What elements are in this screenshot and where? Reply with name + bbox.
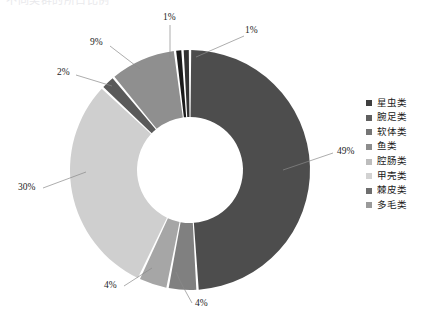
leader-line-9pct xyxy=(110,46,140,69)
legend-item-label: 鱼类 xyxy=(377,142,397,152)
donut-slice xyxy=(191,50,310,290)
donut-chart-canvas xyxy=(0,0,422,325)
legend-item-label: 甲壳类 xyxy=(377,172,407,182)
legend-swatch-icon xyxy=(366,100,372,106)
legend-item-label: 软体类 xyxy=(377,128,407,138)
legend-item[interactable]: 棘皮类 xyxy=(366,184,422,199)
callout-4pct-right: 4% xyxy=(195,299,208,309)
callout-1pct-left: 1% xyxy=(163,13,176,23)
legend-item[interactable]: 腔肠类 xyxy=(366,154,422,169)
leader-line-2pct xyxy=(76,75,112,86)
donut-slice-group xyxy=(70,50,310,290)
callout-1pct-right: 1% xyxy=(245,26,258,36)
legend-item[interactable]: 鱼类 xyxy=(366,140,422,155)
callout-2pct: 2% xyxy=(57,68,70,78)
legend-item[interactable]: 甲壳类 xyxy=(366,169,422,184)
legend-item-label: 星虫类 xyxy=(377,99,407,109)
callout-4pct-left: 4% xyxy=(104,281,117,291)
legend-swatch-icon xyxy=(366,159,372,165)
callout-9pct: 9% xyxy=(90,38,103,48)
callout-49pct: 49% xyxy=(337,147,354,157)
legend-item-label: 多毛类 xyxy=(377,201,407,211)
callout-30pct: 30% xyxy=(18,183,35,193)
legend-swatch-icon xyxy=(366,144,372,150)
legend-item[interactable]: 星虫类 xyxy=(366,96,422,111)
legend-item-label: 腔肠类 xyxy=(377,157,407,167)
legend-swatch-icon xyxy=(366,188,372,194)
legend-item-label: 棘皮类 xyxy=(377,186,407,196)
legend-item[interactable]: 腕足类 xyxy=(366,111,422,126)
legend-swatch-icon xyxy=(366,173,372,179)
legend-item-label: 腕足类 xyxy=(377,113,407,123)
legend-swatch-icon xyxy=(366,129,372,135)
legend-item[interactable]: 多毛类 xyxy=(366,198,422,213)
legend-swatch-icon xyxy=(366,115,372,121)
legend-swatch-icon xyxy=(366,202,372,208)
legend-item[interactable]: 软体类 xyxy=(366,125,422,140)
chart-legend: 星虫类腕足类软体类鱼类腔肠类甲壳类棘皮类多毛类 xyxy=(366,96,422,213)
donut-chart-figure: 不同类群的所占比例 1% 1% 9% 2% 30% 49% 4% 4% 星虫类腕… xyxy=(0,0,422,325)
